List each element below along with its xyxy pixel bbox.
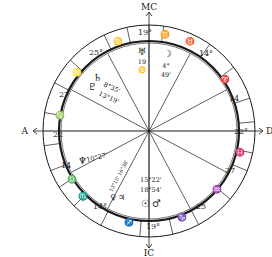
sign-divider-20 (104, 35, 111, 50)
sign-scorpio: ♏ (78, 191, 88, 201)
sign-taurus: ♉ (185, 36, 195, 46)
sign-pisces: ♓ (235, 147, 245, 157)
cusp-14-top: 14° (199, 49, 213, 58)
cusp-asc-degree: 22 (53, 130, 63, 139)
jupiter-glyph: ♃ (118, 193, 125, 202)
mars-glyph: ♂ (152, 198, 161, 209)
sign-divider-21 (127, 27, 130, 43)
uranus-degree: 19 (138, 58, 146, 66)
cusp-mc-degree: 19° (138, 28, 152, 37)
mercury-position: 15°22' (140, 176, 162, 184)
sign-aquarius: ♒ (212, 184, 222, 194)
pluto-glyph: ♇ (88, 81, 97, 92)
sign-virgo: ♍ (55, 110, 65, 120)
sign-divider-10 (169, 219, 173, 235)
cusp-27-right: 27 (225, 166, 235, 175)
uranus-sign: ♋ (138, 66, 146, 74)
ic-label: IC (144, 248, 155, 257)
moon-minute: 49' (161, 71, 171, 79)
sun-position: 18°54' (140, 186, 162, 194)
mc-label: MC (141, 2, 157, 12)
sign-aries: ♈ (220, 74, 230, 84)
cusp-ic-degree: 19° (146, 222, 160, 231)
asc-label: A (21, 126, 29, 136)
moon-glyph: ☽ (163, 48, 172, 59)
sign-divider-11 (140, 221, 141, 237)
astrology-wheel: MC IC A D 19° ♊ ♉ 14° ♈ 14 22° ♓ 27 ♒ 25… (0, 0, 272, 257)
sign-leo: ♌ (72, 67, 82, 77)
desc-label: D (266, 126, 272, 136)
sign-divider-16 (44, 144, 60, 146)
cusp-27-left: 27 (59, 90, 69, 99)
cusp-14-left: 14 (61, 161, 71, 170)
house-line-6 (71, 131, 149, 172)
sign-capricorn: ♑ (177, 212, 187, 222)
house-line-2 (149, 90, 227, 131)
sign-divider-12 (101, 211, 108, 225)
sign-libra: ♎ (67, 174, 77, 184)
cusp-14-right: 14 (229, 94, 239, 103)
house-line-3 (149, 131, 227, 172)
cluster-positions: 13°10' 16°38' (108, 159, 130, 193)
sign-cancer: ♋ (113, 36, 123, 46)
uranus-glyph: ♅ (138, 46, 147, 57)
cusp-25-bottom: 25 (196, 202, 206, 211)
sign-sagittarius: ♐ (124, 217, 134, 227)
venus-glyph: ♀ (110, 193, 116, 202)
sign-divider-5 (239, 122, 255, 123)
sign-gemini: ♊ (160, 29, 170, 39)
moon-degree: 4° (162, 62, 169, 70)
cusp-14-bottom: 14° (93, 202, 107, 211)
sign-divider-9 (191, 210, 199, 224)
cusp-25-top: 25° (89, 48, 103, 57)
sun-glyph: ☉ (141, 198, 150, 209)
neptune-position: 10°27' (86, 151, 109, 164)
cusp-desc-degree: 22° (234, 127, 248, 136)
